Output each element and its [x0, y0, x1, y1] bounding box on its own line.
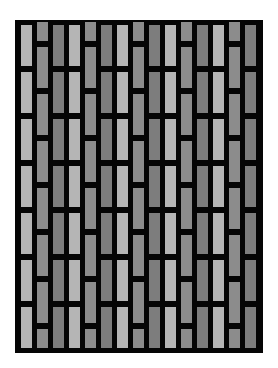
brick-light	[165, 260, 176, 301]
brick-stagger	[85, 141, 96, 182]
brick-light	[213, 119, 224, 160]
brick-stagger	[181, 141, 192, 182]
brick-light	[213, 166, 224, 207]
brick-stagger	[229, 235, 240, 276]
brick-stagger	[181, 329, 192, 348]
brick-stagger	[229, 141, 240, 182]
brick-light	[117, 260, 128, 301]
brick-dark	[101, 119, 112, 160]
brick-light	[69, 307, 80, 348]
brick-dark	[197, 72, 208, 113]
brick-dark	[149, 166, 160, 207]
brick-light	[117, 307, 128, 348]
brick-dark	[149, 260, 160, 301]
brick-stagger	[85, 22, 96, 41]
brick-stagger	[181, 47, 192, 88]
brick-light	[21, 119, 32, 160]
brick-light	[21, 307, 32, 348]
brick-light	[117, 72, 128, 113]
brick-light	[165, 72, 176, 113]
brick-dark	[101, 166, 112, 207]
brick-light	[21, 25, 32, 66]
brick-stagger	[181, 235, 192, 276]
brick-stagger	[133, 94, 144, 135]
brick-dark	[53, 260, 64, 301]
brick-light	[69, 260, 80, 301]
brick-stagger	[133, 22, 144, 41]
brick-light	[21, 213, 32, 254]
brick-dark	[149, 213, 160, 254]
brick-dark	[101, 213, 112, 254]
brick-stagger	[85, 94, 96, 135]
brick-light	[213, 307, 224, 348]
brick-light	[117, 166, 128, 207]
brick-stagger	[181, 282, 192, 323]
brick-dark	[245, 72, 256, 113]
brick-light	[165, 213, 176, 254]
brick-stagger	[181, 188, 192, 229]
brick-stagger	[229, 188, 240, 229]
brick-stagger	[133, 235, 144, 276]
brick-dark	[245, 119, 256, 160]
brick-light	[69, 72, 80, 113]
brick-pattern-frame	[15, 20, 263, 353]
brick-stagger	[229, 329, 240, 348]
brick-dark	[53, 72, 64, 113]
brick-stagger	[229, 47, 240, 88]
brick-stagger	[133, 47, 144, 88]
brick-light	[213, 72, 224, 113]
brick-light	[21, 72, 32, 113]
brick-dark	[53, 213, 64, 254]
brick-stagger	[37, 94, 48, 135]
brick-dark	[197, 166, 208, 207]
brick-stagger	[37, 282, 48, 323]
brick-dark	[245, 25, 256, 66]
brick-stagger	[85, 329, 96, 348]
brick-dark	[149, 307, 160, 348]
brick-light	[69, 166, 80, 207]
brick-stagger	[133, 282, 144, 323]
brick-stagger	[133, 141, 144, 182]
brick-stagger	[181, 94, 192, 135]
brick-dark	[101, 307, 112, 348]
brick-stagger	[133, 188, 144, 229]
brick-light	[21, 166, 32, 207]
brick-stagger	[37, 188, 48, 229]
brick-dark	[101, 25, 112, 66]
brick-stagger	[85, 282, 96, 323]
brick-light	[165, 166, 176, 207]
brick-stagger	[37, 235, 48, 276]
brick-light	[117, 213, 128, 254]
brick-stagger	[37, 47, 48, 88]
brick-dark	[245, 307, 256, 348]
brick-light	[165, 119, 176, 160]
brick-dark	[53, 25, 64, 66]
brick-dark	[245, 260, 256, 301]
brick-stagger	[229, 22, 240, 41]
brick-dark	[53, 307, 64, 348]
brick-dark	[197, 25, 208, 66]
brick-stagger	[181, 22, 192, 41]
brick-dark	[149, 119, 160, 160]
brick-dark	[245, 166, 256, 207]
brick-stagger	[85, 235, 96, 276]
brick-light	[213, 260, 224, 301]
brick-light	[117, 25, 128, 66]
brick-dark	[149, 25, 160, 66]
brick-stagger	[133, 329, 144, 348]
brick-dark	[53, 166, 64, 207]
brick-light	[69, 25, 80, 66]
brick-stagger	[85, 47, 96, 88]
brick-stagger	[37, 329, 48, 348]
brick-dark	[53, 119, 64, 160]
brick-light	[165, 307, 176, 348]
brick-dark	[197, 119, 208, 160]
brick-dark	[101, 72, 112, 113]
brick-dark	[101, 260, 112, 301]
brick-stagger	[85, 188, 96, 229]
brick-light	[69, 213, 80, 254]
brick-dark	[149, 72, 160, 113]
brick-dark	[197, 213, 208, 254]
brick-light	[117, 119, 128, 160]
brick-light	[69, 119, 80, 160]
